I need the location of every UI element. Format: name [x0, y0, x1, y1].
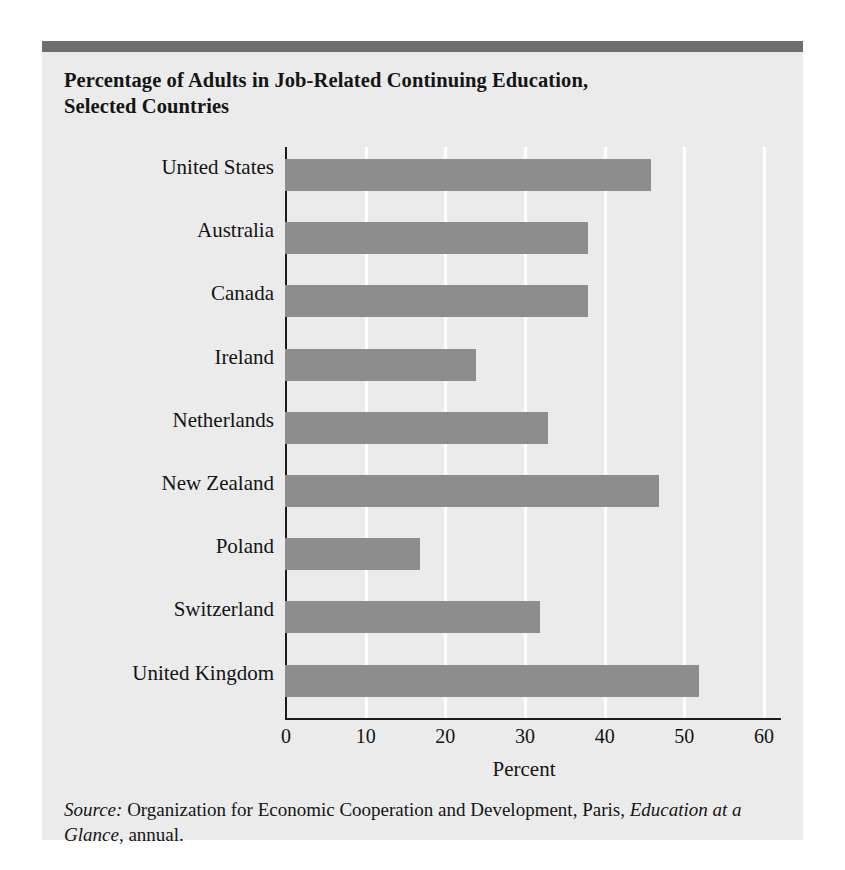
category-label-ireland: Ireland	[215, 346, 274, 369]
category-label-netherlands: Netherlands	[173, 409, 274, 432]
category-label-united-kingdom: United Kingdom	[132, 662, 274, 685]
bar-row: Poland	[285, 526, 763, 589]
bar-australia	[285, 222, 588, 254]
figure-panel: Percentage of Adults in Job-Related Cont…	[42, 41, 803, 840]
bar-ireland	[285, 349, 476, 381]
bar-switzerland	[285, 601, 540, 633]
x-tick-label-40: 40	[595, 725, 615, 748]
bar-row: United States	[285, 147, 763, 210]
source-note: Source: Organization for Economic Cooper…	[64, 797, 774, 847]
bar-row: New Zealand	[285, 463, 763, 526]
category-label-poland: Poland	[216, 535, 274, 558]
bar-row: Ireland	[285, 337, 763, 400]
x-tick-label-50: 50	[674, 725, 694, 748]
bar-poland	[285, 538, 420, 570]
bar-netherlands	[285, 412, 548, 444]
x-tick-label-20: 20	[435, 725, 455, 748]
source-label: Source:	[64, 799, 122, 820]
bars-group: United StatesAustraliaCanadaIrelandNethe…	[285, 147, 763, 716]
source-text-part-2: , annual.	[119, 824, 184, 845]
bar-canada	[285, 285, 588, 317]
bar-row: Switzerland	[285, 589, 763, 652]
bar-row: Canada	[285, 273, 763, 336]
category-label-canada: Canada	[211, 282, 274, 305]
bar-row: Netherlands	[285, 400, 763, 463]
x-axis-title: Percent	[285, 757, 763, 782]
x-tick-label-60: 60	[754, 725, 774, 748]
bar-chart-plot-area: United StatesAustraliaCanadaIrelandNethe…	[42, 41, 803, 840]
bar-row: Australia	[285, 210, 763, 273]
bar-new-zealand	[285, 475, 659, 507]
bar-united-states	[285, 159, 651, 191]
bar-row: United Kingdom	[285, 653, 763, 716]
category-label-switzerland: Switzerland	[174, 598, 274, 621]
category-label-new-zealand: New Zealand	[161, 472, 274, 495]
source-text-part-1: Organization for Economic Cooperation an…	[122, 799, 629, 820]
bar-united-kingdom	[285, 665, 699, 697]
x-axis-line	[285, 718, 781, 720]
x-tick-label-0: 0	[281, 725, 291, 748]
category-label-united-states: United States	[161, 156, 274, 179]
gridline-60	[763, 147, 766, 718]
x-tick-label-10: 10	[356, 725, 376, 748]
category-label-australia: Australia	[197, 219, 274, 242]
x-tick-label-30: 30	[515, 725, 535, 748]
